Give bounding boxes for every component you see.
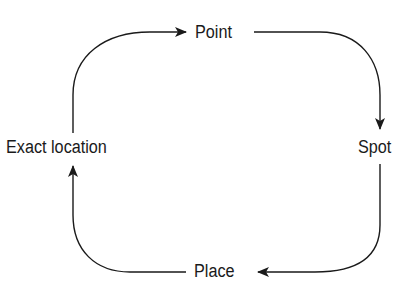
node-spot: Spot	[358, 137, 391, 157]
arrow-point-to-spot	[254, 32, 380, 129]
arrow-exact-to-point	[73, 32, 186, 133]
node-exact-location: Exact location	[6, 137, 107, 157]
cycle-diagram: Point Spot Place Exact location	[0, 0, 407, 302]
arrow-spot-to-place	[258, 164, 380, 272]
node-point: Point	[195, 22, 232, 42]
arrow-place-to-exact	[73, 166, 186, 272]
node-place: Place	[194, 261, 235, 281]
